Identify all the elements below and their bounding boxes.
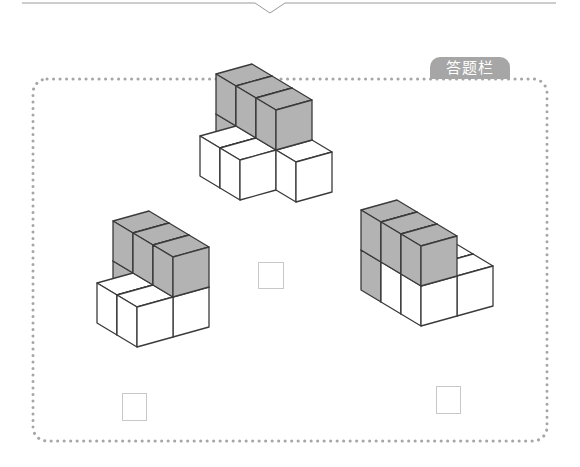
cube [117,285,173,347]
cube-figures [97,64,493,347]
cube [256,88,312,150]
figure-top [200,64,332,202]
answer-box[interactable] [122,393,147,421]
cube [153,235,209,297]
figure-bottom-right [361,200,493,326]
answer-box[interactable] [258,262,284,289]
header-divider [22,3,556,13]
cube [276,140,332,202]
figure-bottom-left [97,211,209,347]
answer-box[interactable] [436,386,461,414]
cube [401,224,457,286]
cube [220,138,276,200]
answer-panel-title: 答题栏 [430,57,510,79]
